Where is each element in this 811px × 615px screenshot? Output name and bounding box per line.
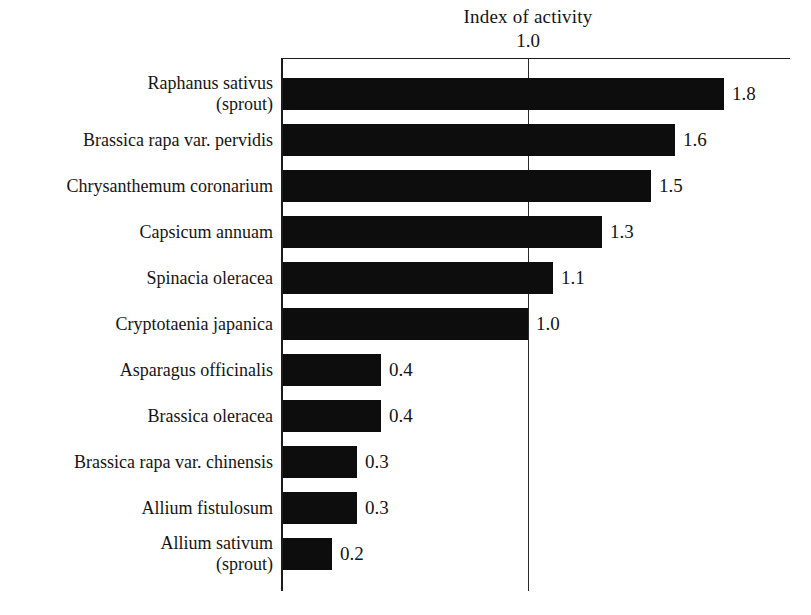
bar-row: Brassica rapa var. chinensis0.3 xyxy=(0,439,811,485)
bar-rows-container: Raphanus sativus(sprout)1.8Brassica rapa… xyxy=(0,0,811,615)
category-label-line2: (sprout) xyxy=(216,554,273,575)
bar xyxy=(283,308,528,340)
category-label: Brassica rapa var. pervidis xyxy=(83,117,273,163)
bar-value-label: 1.6 xyxy=(683,117,707,163)
bar-value-label: 0.3 xyxy=(365,485,389,531)
bar xyxy=(283,446,357,478)
bar-row: Capsicum annuam1.3 xyxy=(0,209,811,255)
category-label-line1: Chrysanthemum coronarium xyxy=(67,176,273,197)
bar xyxy=(283,354,381,386)
category-label-line1: Cryptotaenia japanica xyxy=(116,314,273,335)
category-label-line2: (sprout) xyxy=(216,94,273,115)
bar-value-label: 1.3 xyxy=(610,209,634,255)
bar-row: Asparagus officinalis0.4 xyxy=(0,347,811,393)
bar xyxy=(283,170,651,202)
category-label: Chrysanthemum coronarium xyxy=(67,163,273,209)
bar-value-label: 0.4 xyxy=(389,393,413,439)
bar xyxy=(283,262,553,294)
category-label-line1: Asparagus officinalis xyxy=(120,360,273,381)
bar xyxy=(283,124,675,156)
bar-value-label: 0.3 xyxy=(365,439,389,485)
bar-row: Allium sativum(sprout)0.2 xyxy=(0,531,811,577)
bar-row: Allium fistulosum0.3 xyxy=(0,485,811,531)
category-label-line1: Raphanus sativus xyxy=(148,73,274,94)
bar xyxy=(283,400,381,432)
category-label: Brassica rapa var. chinensis xyxy=(74,439,273,485)
category-label: Asparagus officinalis xyxy=(120,347,273,393)
category-label-line1: Brassica oleracea xyxy=(148,406,273,427)
category-label: Raphanus sativus(sprout) xyxy=(148,71,274,117)
bar-row: Chrysanthemum coronarium1.5 xyxy=(0,163,811,209)
bar-value-label: 1.8 xyxy=(732,71,756,117)
bar xyxy=(283,538,332,570)
bar-row: Brassica oleracea0.4 xyxy=(0,393,811,439)
bar-row: Raphanus sativus(sprout)1.8 xyxy=(0,71,811,117)
category-label-line1: Allium sativum xyxy=(161,533,274,554)
category-label-line1: Spinacia oleracea xyxy=(147,268,273,289)
bar-row: Cryptotaenia japanica1.0 xyxy=(0,301,811,347)
category-label-line1: Allium fistulosum xyxy=(141,498,273,519)
bar-value-label: 0.4 xyxy=(389,347,413,393)
bar-value-label: 1.0 xyxy=(536,301,560,347)
category-label-line1: Brassica rapa var. chinensis xyxy=(74,452,273,473)
bar-row: Spinacia oleracea1.1 xyxy=(0,255,811,301)
bar-value-label: 0.2 xyxy=(340,531,364,577)
category-label-line1: Brassica rapa var. pervidis xyxy=(83,130,273,151)
bar xyxy=(283,492,357,524)
category-label: Allium sativum(sprout) xyxy=(161,531,274,577)
category-label: Spinacia oleracea xyxy=(147,255,273,301)
category-label: Capsicum annuam xyxy=(140,209,273,255)
bar-row: Brassica rapa var. pervidis1.6 xyxy=(0,117,811,163)
bar-chart: Index of activity 1.0 Raphanus sativus(s… xyxy=(0,0,811,615)
category-label-line1: Capsicum annuam xyxy=(140,222,273,243)
category-label: Allium fistulosum xyxy=(141,485,273,531)
bar xyxy=(283,78,724,110)
category-label: Cryptotaenia japanica xyxy=(116,301,273,347)
bar xyxy=(283,216,602,248)
bar-value-label: 1.1 xyxy=(561,255,585,301)
bar-value-label: 1.5 xyxy=(659,163,683,209)
category-label: Brassica oleracea xyxy=(148,393,273,439)
